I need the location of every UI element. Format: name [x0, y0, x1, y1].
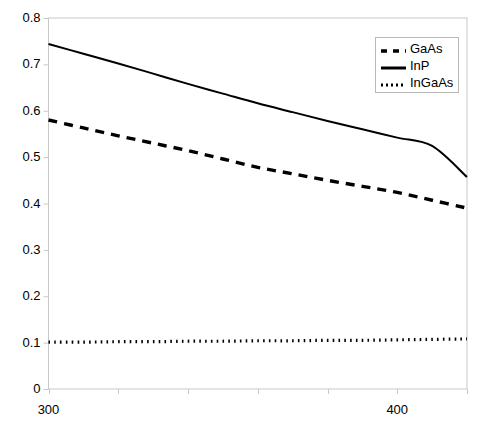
- y-tick-label-4: 0.4: [22, 197, 40, 210]
- legend-swatch-solid-icon: [380, 60, 407, 72]
- x-tick-label-0: 300: [19, 403, 79, 416]
- y-tick-label-8: 0.8: [22, 11, 40, 24]
- legend-label: InGaAs: [410, 76, 453, 89]
- y-tick-label-5: 0.5: [22, 150, 40, 163]
- legend-label: InP: [410, 59, 430, 72]
- line-chart: 00.10.20.30.40.50.60.70.8 300400 GaAsInP…: [0, 0, 498, 427]
- legend-swatch-dashed-icon: [380, 43, 407, 55]
- y-tick-label-6: 0.6: [22, 104, 40, 117]
- legend-swatch-dotted-icon: [380, 77, 407, 89]
- y-tick-label-0: 0: [33, 382, 40, 395]
- x-tick-label-5: 400: [367, 403, 427, 416]
- legend-label: GaAs: [410, 42, 443, 55]
- y-tick-label-1: 0.1: [22, 336, 40, 349]
- legend-item-inp: InP: [380, 57, 430, 74]
- y-tick-label-3: 0.3: [22, 243, 40, 256]
- chart-legend: GaAsInPInGaAs: [375, 37, 459, 93]
- legend-item-ingaas: InGaAs: [380, 74, 453, 91]
- y-tick-label-7: 0.7: [22, 57, 40, 70]
- y-tick-label-2: 0.2: [22, 289, 40, 302]
- legend-item-gaas: GaAs: [380, 40, 443, 57]
